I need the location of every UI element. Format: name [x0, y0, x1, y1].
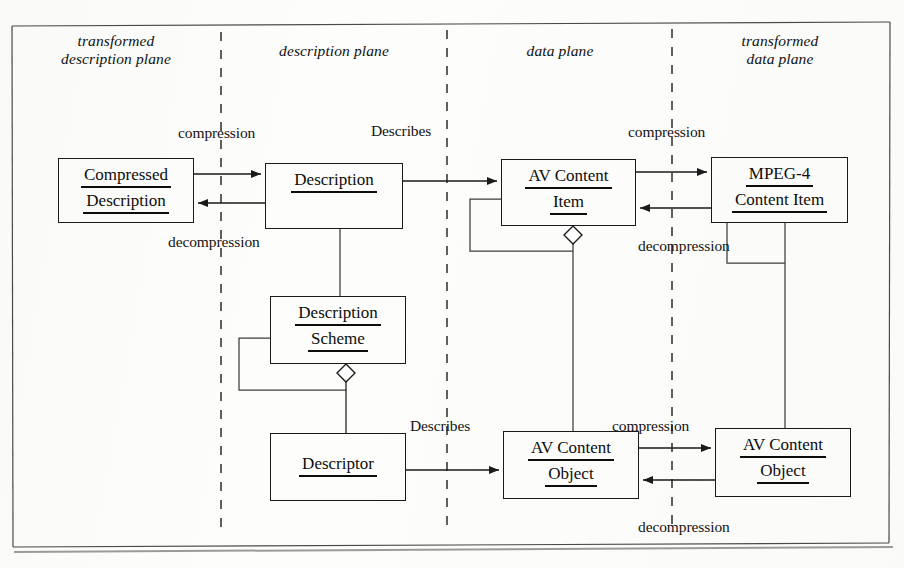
class-box-line: Item [502, 192, 635, 215]
edge-mpeg4-bottom-bracket [727, 223, 785, 263]
class-box-description-scheme[interactable]: Description Scheme [270, 296, 406, 364]
edge-label-describes-item: Describes [371, 122, 431, 140]
class-box-line: Description [59, 191, 193, 214]
edge-label-decompression-item: decompression [638, 237, 730, 255]
class-box-line: Description [266, 170, 402, 193]
class-box-compressed-description[interactable]: Compressed Description [58, 158, 194, 223]
edge-label-compression-item: compression [628, 123, 705, 141]
aggregation-diamond-av-content-item [564, 226, 582, 244]
class-box-av-content-item[interactable]: AV Content Item [501, 159, 636, 226]
class-box-description[interactable]: Description [265, 163, 403, 229]
class-box-line: Object [504, 464, 638, 487]
edge-av-content-item-aggregation-object [564, 226, 582, 431]
edge-label-compression-description: compression [178, 124, 255, 142]
class-box-line: Scheme [271, 329, 405, 352]
plane-label-data-plane: data plane [460, 42, 660, 60]
class-box-descriptor[interactable]: Descriptor [270, 433, 406, 501]
edge-label-decompression-description: decompression [168, 233, 260, 251]
edge-label-describes-object: Describes [410, 417, 470, 435]
class-box-av-content-object-right[interactable]: AV Content Object [715, 428, 851, 497]
edge-label-decompression-object: decompression [638, 518, 730, 536]
class-box-line: Content Item [712, 190, 847, 213]
class-box-line: MPEG-4 [712, 164, 847, 187]
edge-description-scheme-aggregation-descriptor [337, 364, 355, 433]
aggregation-diamond-description-scheme [337, 364, 355, 382]
plane-label-transformed-description-plane: transformed description plane [16, 32, 216, 68]
class-box-line: Descriptor [271, 454, 405, 477]
class-box-line: Description [271, 303, 405, 326]
class-box-mpeg4-content-item[interactable]: MPEG-4 Content Item [711, 157, 848, 223]
class-box-line: Object [716, 461, 850, 484]
class-box-line: Compressed [59, 165, 193, 188]
class-box-line: AV Content [502, 166, 635, 189]
class-box-line: AV Content [716, 435, 850, 458]
class-box-av-content-object-left[interactable]: AV Content Object [503, 431, 639, 499]
edge-label-compression-object: compression [612, 417, 689, 435]
class-box-line: AV Content [504, 438, 638, 461]
diagram-canvas: transformed description plane descriptio… [0, 0, 904, 568]
plane-label-transformed-data-plane: transformed data plane [682, 32, 878, 68]
plane-label-description-plane: description plane [234, 42, 434, 60]
outer-frame-shadow [14, 547, 893, 552]
